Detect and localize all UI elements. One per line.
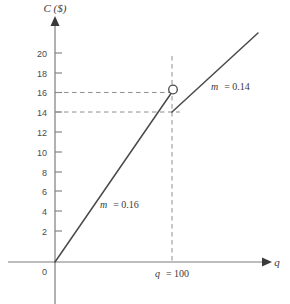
y-tick-label-4: 4 [42,207,47,217]
x-axis-arrow-icon [262,258,272,267]
x-tick-label-q100-value: = 100 [166,268,189,279]
x-tick-label-q100-symbol: q [155,268,160,279]
axes-group [8,16,272,304]
y-axis-arrow-icon [51,16,60,26]
y-tick-label-10: 10 [37,148,47,158]
y-tick-labels: 20 18 16 14 12 10 8 6 4 2 0 [37,49,47,278]
data-line-segment-1 [55,94,171,263]
x-axis-title: q [274,256,280,268]
slope-label-lower-value: = 0.16 [113,199,139,210]
y-tick-label-18: 18 [37,69,47,79]
data-line-segment-2 [172,33,258,112]
y-tick-label-14: 14 [37,108,47,118]
guide-lines-group [56,56,180,262]
y-axis-title: C ($) [44,2,67,15]
slope-label-upper: m = 0.14 [211,81,250,92]
open-point-marker-100-16 [169,85,178,94]
slope-label-lower: m = 0.16 [100,199,139,210]
y-tick-label-16: 16 [37,88,47,98]
origin-label: 0 [42,267,47,277]
y-tick-label-12: 12 [37,128,47,138]
y-tick-label-6: 6 [42,187,47,197]
y-tick-label-2: 2 [42,227,47,237]
slope-label-upper-value: = 0.14 [224,81,250,92]
cost-function-plot: 20 18 16 14 12 10 8 6 4 2 0 C ($) q [0,0,290,304]
y-tick-marks [55,53,62,231]
chart-figure: 20 18 16 14 12 10 8 6 4 2 0 C ($) q [0,0,290,304]
x-tick-label-q100: q = 100 [155,268,189,279]
slope-label-upper-symbol: m [211,81,218,92]
y-tick-label-20: 20 [37,49,47,59]
slope-label-lower-symbol: m [100,199,107,210]
y-tick-label-8: 8 [42,168,47,178]
